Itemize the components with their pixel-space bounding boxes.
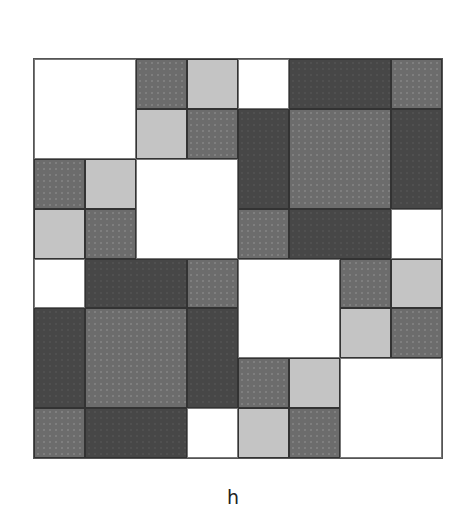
block-light: [34, 209, 85, 259]
block-medium: [85, 209, 136, 259]
block-medium: [187, 259, 238, 309]
block-matrix-grid: [33, 58, 443, 459]
block-light: [238, 408, 289, 458]
block-medium: [85, 308, 187, 408]
block-medium: [391, 59, 442, 109]
block-medium: [391, 308, 442, 358]
block-dark: [85, 408, 187, 458]
block-light: [391, 259, 442, 309]
block-medium: [340, 259, 391, 309]
block-dark: [238, 109, 289, 209]
block-white: [34, 59, 136, 159]
block-dark: [187, 308, 238, 408]
block-medium: [289, 408, 340, 458]
block-light: [340, 308, 391, 358]
block-light: [187, 59, 238, 109]
block-white: [34, 259, 85, 309]
block-medium: [136, 59, 187, 109]
block-dark: [391, 109, 442, 209]
block-medium: [34, 159, 85, 209]
block-white: [136, 159, 238, 259]
block-white: [391, 209, 442, 259]
figure-label: h: [0, 488, 466, 507]
block-white: [238, 259, 340, 359]
block-dark: [85, 259, 187, 309]
block-light: [136, 109, 187, 159]
block-medium: [238, 358, 289, 408]
block-dark: [289, 209, 391, 259]
block-medium: [289, 109, 391, 209]
block-dark: [289, 59, 391, 109]
block-medium: [187, 109, 238, 159]
block-medium: [238, 209, 289, 259]
block-light: [85, 159, 136, 209]
block-white: [187, 408, 238, 458]
block-white: [340, 358, 442, 458]
block-light: [289, 358, 340, 408]
block-white: [238, 59, 289, 109]
block-medium: [34, 408, 85, 458]
block-dark: [34, 308, 85, 408]
